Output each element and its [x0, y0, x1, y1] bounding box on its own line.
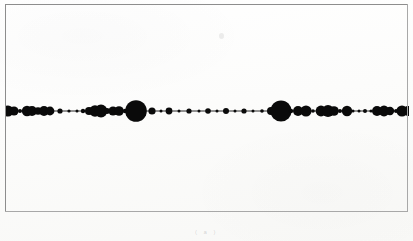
- figure-caption: ( a ): [0, 229, 413, 235]
- bead-marker: [358, 110, 361, 113]
- bead-marker: [160, 110, 163, 113]
- bead-marker: [46, 107, 55, 116]
- bead-marker: [234, 110, 237, 113]
- bead-marker: [186, 108, 191, 113]
- bead-marker: [216, 110, 219, 113]
- bead-marker: [57, 108, 62, 113]
- bead-marker: [270, 100, 291, 121]
- bead-marker: [76, 110, 79, 113]
- bead-marker: [9, 106, 18, 115]
- bead-marker: [142, 109, 146, 113]
- bead-marker: [311, 109, 315, 113]
- bead-marker: [67, 109, 70, 112]
- bead-marker: [198, 110, 201, 113]
- bead-marker: [252, 110, 255, 113]
- bead-marker: [166, 108, 173, 115]
- figure-root: ( a ): [0, 0, 413, 241]
- bead-marker: [342, 106, 352, 116]
- bead-marker: [386, 107, 394, 115]
- bead-marker: [338, 109, 342, 113]
- bead-chain-plot: [6, 5, 409, 213]
- bead-marker: [289, 109, 293, 113]
- bead-marker: [352, 110, 355, 113]
- bead-marker: [148, 107, 155, 114]
- bead-marker: [260, 109, 264, 113]
- bead-marker: [81, 109, 85, 113]
- bead-marker: [205, 108, 211, 114]
- bead-marker: [241, 108, 246, 113]
- bead-marker: [114, 106, 124, 116]
- bead-marker: [363, 109, 367, 113]
- bead-marker: [223, 108, 229, 114]
- bead-marker: [329, 106, 339, 116]
- bead-marker: [18, 109, 22, 113]
- bead-marker: [300, 105, 311, 116]
- plot-frame-border: [5, 4, 408, 212]
- bead-marker: [178, 110, 181, 113]
